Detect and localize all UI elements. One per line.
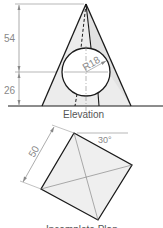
angle-label: 30° — [98, 135, 112, 145]
drawing-canvas: 54 26 R18 Elevation 30° — [0, 0, 163, 228]
plan-view: 30° 50 Incomplete Plan — [20, 125, 132, 228]
plan-title: Incomplete Plan — [46, 224, 118, 228]
arrow-icon — [18, 73, 21, 78]
dim-54-label: 54 — [4, 33, 16, 44]
extension-line-plan-left — [20, 181, 41, 189]
arrow-icon — [18, 100, 21, 105]
elevation-view: 54 26 R18 Elevation — [4, 4, 163, 120]
arrow-icon — [18, 5, 21, 10]
extension-line-plan-top — [52, 125, 74, 133]
arrow-icon — [50, 127, 54, 133]
arrow-icon — [18, 66, 21, 71]
side-dim-label: 50 — [26, 143, 41, 159]
elevation-title: Elevation — [63, 109, 104, 120]
dim-26-label: 26 — [4, 85, 16, 96]
plan-square — [41, 133, 132, 220]
arrow-icon — [23, 177, 27, 183]
